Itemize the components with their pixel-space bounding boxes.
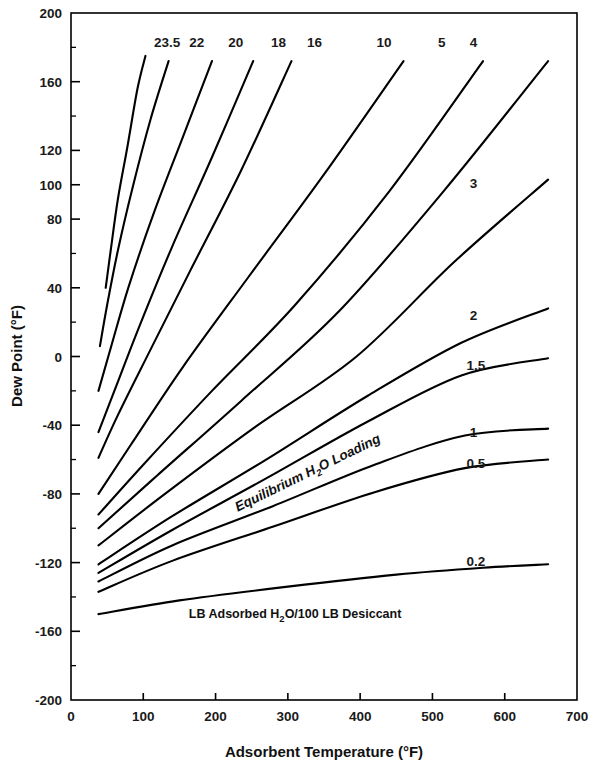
- curve-label-0-5: 0.5: [466, 456, 485, 471]
- curve-label-2: 2: [470, 308, 478, 323]
- curve-0-5: [98, 460, 548, 592]
- curve-label-23-5: 23.5: [154, 35, 181, 50]
- y-axis-tick-labels: 20016012010080400-40-80-120-160-200: [35, 6, 62, 708]
- y-axis-ticks: [71, 82, 80, 632]
- y-axis-title: Dew Point (°F): [8, 305, 25, 407]
- curve-label-18: 18: [271, 35, 287, 50]
- dew-point-vs-adsorbent-temperature-chart: 0100200300400500600700 20016012010080400…: [0, 0, 600, 768]
- x-tick-label: 0: [67, 709, 75, 724]
- y-tick-label: 120: [39, 143, 62, 158]
- curve-label-group: 23.5222018161054321.510.50.2: [154, 35, 486, 569]
- units-caption-text: LB Adsorbed H2O/100 LB Desiccant: [189, 607, 402, 624]
- curve-label-0-2: 0.2: [466, 554, 485, 569]
- curve-label-10: 10: [376, 35, 391, 50]
- y-tick-label: 80: [47, 212, 62, 227]
- y-tick-label: 160: [39, 75, 62, 90]
- curve-label-3: 3: [470, 176, 478, 191]
- y-tick-label: 0: [54, 350, 62, 365]
- equilibrium-loading-annotation: Equilibrium H2O Loading: [232, 431, 384, 518]
- x-axis-ticks: [143, 693, 504, 700]
- y-tick-label: 40: [47, 281, 62, 296]
- x-tick-label: 400: [349, 709, 372, 724]
- x-tick-label: 500: [421, 709, 444, 724]
- curve-label-22: 22: [189, 35, 204, 50]
- equilibrium-loading-annotation-text: Equilibrium H2O Loading: [232, 431, 384, 518]
- y-tick-label: -80: [42, 487, 62, 502]
- curve-2: [98, 308, 548, 564]
- x-tick-label: 200: [204, 709, 227, 724]
- y-tick-label: -200: [35, 693, 62, 708]
- curve-label-4: 4: [470, 35, 478, 50]
- x-tick-label: 600: [493, 709, 516, 724]
- y-tick-label: -160: [35, 624, 62, 639]
- x-tick-label: 300: [277, 709, 300, 724]
- y-tick-label: -120: [35, 556, 62, 571]
- y-tick-label: 100: [39, 178, 62, 193]
- x-tick-label: 100: [132, 709, 155, 724]
- curve-label-1-5: 1.5: [466, 358, 485, 373]
- y-tick-label: -40: [42, 418, 62, 433]
- x-axis-tick-labels: 0100200300400500600700: [67, 709, 588, 724]
- chart-figure: 0100200300400500600700 20016012010080400…: [0, 0, 600, 768]
- x-axis-title: Adsorbent Temperature (°F): [225, 743, 423, 760]
- curve-label-5: 5: [438, 35, 446, 50]
- curve-label-20: 20: [228, 35, 243, 50]
- y-tick-label: 200: [39, 6, 62, 21]
- units-caption: LB Adsorbed H2O/100 LB Desiccant: [189, 607, 402, 624]
- curve-group: [98, 56, 548, 614]
- curve-label-1: 1: [470, 425, 478, 440]
- curve-label-16: 16: [307, 35, 323, 50]
- x-tick-label: 700: [566, 709, 589, 724]
